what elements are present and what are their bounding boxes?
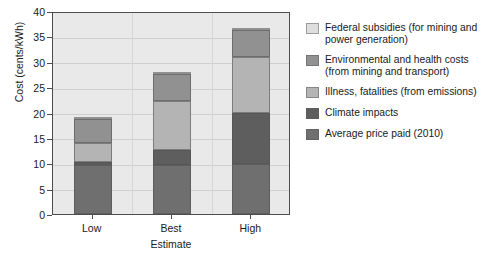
bar-segment bbox=[153, 165, 191, 214]
bar-segment bbox=[74, 119, 112, 143]
y-axis-tick bbox=[47, 37, 52, 38]
y-axis-tick-label: 20 bbox=[23, 109, 45, 119]
y-axis-tick-label: 30 bbox=[23, 58, 45, 68]
y-axis-tick-label: 15 bbox=[23, 134, 45, 144]
y-axis-tick-label: 0 bbox=[23, 210, 45, 220]
plot-area bbox=[52, 12, 290, 215]
x-axis-tick-label: High bbox=[215, 222, 285, 234]
y-axis-tick bbox=[47, 114, 52, 115]
legend-swatch-icon bbox=[306, 108, 319, 119]
bar-segment bbox=[74, 165, 112, 214]
y-axis-tick bbox=[47, 88, 52, 89]
bar-high bbox=[232, 11, 270, 214]
y-axis-tick-label: 40 bbox=[23, 7, 45, 17]
bar-segment bbox=[74, 143, 112, 162]
legend-item: Federal subsidies (for mining and power … bbox=[306, 22, 478, 45]
gridline-vertical bbox=[212, 13, 213, 214]
x-axis-tick-label: Best bbox=[136, 222, 206, 234]
legend-swatch-icon bbox=[306, 55, 319, 66]
legend-label: Federal subsidies (for mining and power … bbox=[325, 22, 478, 45]
y-axis-tick-label: 5 bbox=[23, 185, 45, 195]
bar-segment bbox=[232, 164, 270, 214]
y-axis-tick bbox=[47, 164, 52, 165]
y-axis-tick bbox=[47, 63, 52, 64]
bar-segment bbox=[232, 28, 270, 30]
bar-low bbox=[74, 11, 112, 214]
bar-segment bbox=[74, 162, 112, 166]
x-axis-tick bbox=[250, 215, 251, 219]
x-axis-tick bbox=[92, 215, 93, 219]
legend-label: Environmental and health costs (from min… bbox=[325, 54, 478, 77]
y-axis-tick-label: 25 bbox=[23, 83, 45, 93]
x-axis-tick bbox=[171, 215, 172, 219]
bar-segment bbox=[153, 74, 191, 101]
bar-segment bbox=[232, 57, 270, 113]
legend-label: Average price paid (2010) bbox=[325, 128, 443, 140]
gridline-vertical bbox=[132, 13, 133, 214]
y-axis-tick-label: 35 bbox=[23, 32, 45, 42]
y-axis-tick bbox=[47, 12, 52, 13]
bar-segment bbox=[232, 113, 270, 164]
bar-segment bbox=[153, 101, 191, 150]
y-axis-tick bbox=[47, 215, 52, 216]
bar-segment bbox=[153, 150, 191, 166]
legend-item: Climate impacts bbox=[306, 107, 478, 119]
stacked-bar-chart: Cost (cents/kWh) 0510152025303540 LowBes… bbox=[0, 0, 481, 263]
legend-item: Average price paid (2010) bbox=[306, 128, 478, 140]
legend-item: Environmental and health costs (from min… bbox=[306, 54, 478, 77]
bar-best bbox=[153, 11, 191, 214]
bar-segment bbox=[153, 72, 191, 74]
y-axis-tick bbox=[47, 139, 52, 140]
legend-swatch-icon bbox=[306, 87, 319, 98]
legend-swatch-icon bbox=[306, 23, 319, 34]
y-axis-tick-label: 10 bbox=[23, 159, 45, 169]
legend-item: Illness, fatalities (from emissions) bbox=[306, 86, 478, 98]
legend-label: Climate impacts bbox=[325, 107, 398, 119]
x-axis-tick-label: Low bbox=[57, 222, 127, 234]
y-axis-tick bbox=[47, 190, 52, 191]
legend-label: Illness, fatalities (from emissions) bbox=[325, 86, 477, 98]
legend-swatch-icon bbox=[306, 129, 319, 140]
bar-segment bbox=[74, 117, 112, 119]
bar-segment bbox=[232, 30, 270, 57]
x-axis-title: Estimate bbox=[52, 238, 290, 250]
chart-legend: Federal subsidies (for mining and power … bbox=[306, 22, 478, 149]
